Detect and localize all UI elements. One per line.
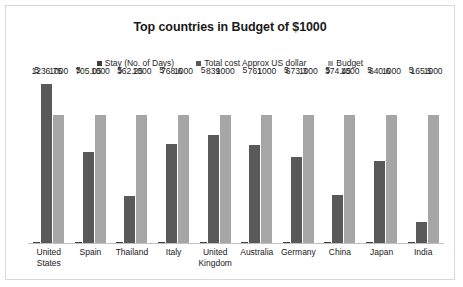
bar-group: 5673.31000 xyxy=(278,76,320,243)
bar-value-label: 1000 xyxy=(257,67,276,76)
bar-rect: 1000 xyxy=(428,115,439,243)
x-axis-label: Thailand xyxy=(111,247,153,268)
bar-value-label: 5 xyxy=(242,66,247,75)
bar-budget[interactable]: 1000 xyxy=(95,76,106,243)
x-axis-line xyxy=(28,243,444,244)
bar-rect: 1000 xyxy=(136,115,147,243)
bar-rect: 673.3 xyxy=(291,157,302,243)
bar-cost[interactable]: 761 xyxy=(249,76,260,243)
bar-value-label: 1000 xyxy=(424,67,443,76)
x-axis-labels: United StatesSpainThailandItalyUnited Ki… xyxy=(28,247,444,268)
bar-cost[interactable]: 362.25 xyxy=(124,76,135,243)
bar-group: 5768.61000 xyxy=(153,76,195,243)
bar-rect: 1236.75 xyxy=(41,84,52,243)
plot-area: 51236.7510005705.0510005362.2510005768.6… xyxy=(28,76,444,244)
bar-rect: 839 xyxy=(208,135,219,243)
bar-budget[interactable]: 1000 xyxy=(220,76,231,243)
x-axis-label: Japan xyxy=(361,247,403,268)
bar-rect: 165.5 xyxy=(416,222,427,243)
bar-cost[interactable]: 1236.75 xyxy=(41,76,52,243)
bar-group: 5374.451000 xyxy=(319,76,361,243)
bar-budget[interactable]: 1000 xyxy=(344,76,355,243)
bar-groups: 51236.7510005705.0510005362.2510005768.6… xyxy=(28,76,444,243)
bar-group: 58391000 xyxy=(194,76,236,243)
bar-group: 5362.251000 xyxy=(111,76,153,243)
bar-rect: 768.6 xyxy=(166,144,177,243)
x-axis-label: United States xyxy=(28,247,70,268)
bar-cost[interactable]: 673.3 xyxy=(291,76,302,243)
bar-cost[interactable]: 705.05 xyxy=(83,76,94,243)
bar-budget[interactable]: 1000 xyxy=(303,76,314,243)
bar-stay[interactable]: 5 xyxy=(408,76,415,243)
bar-budget[interactable]: 1000 xyxy=(261,76,272,243)
bar-stay[interactable]: 5 xyxy=(241,76,248,243)
bar-group: 57611000 xyxy=(236,76,278,243)
bar-value-label: 1000 xyxy=(91,67,110,76)
bar-stay[interactable]: 5 xyxy=(283,76,290,243)
x-axis-label: Italy xyxy=(153,247,195,268)
bar-budget[interactable]: 1000 xyxy=(386,76,397,243)
bar-value-label: 1000 xyxy=(299,67,318,76)
bar-rect: 705.05 xyxy=(83,152,94,243)
bar-rect: 1000 xyxy=(178,115,189,243)
bar-stay[interactable]: 5 xyxy=(366,76,373,243)
bar-group: 5705.051000 xyxy=(70,76,112,243)
bar-rect: 640.6 xyxy=(374,161,385,243)
bar-rect: 374.45 xyxy=(332,195,343,243)
bar-budget[interactable]: 1000 xyxy=(53,76,64,243)
bar-budget[interactable]: 1000 xyxy=(136,76,147,243)
bar-rect: 1000 xyxy=(220,115,231,243)
x-axis-label: United Kingdom xyxy=(194,247,236,268)
bar-stay[interactable]: 5 xyxy=(200,76,207,243)
bar-rect: 1000 xyxy=(261,115,272,243)
bar-rect: 1000 xyxy=(95,115,106,243)
bar-rect: 1000 xyxy=(303,115,314,243)
bar-cost[interactable]: 374.45 xyxy=(332,76,343,243)
x-axis-label: Germany xyxy=(278,247,320,268)
bar-stay[interactable]: 5 xyxy=(33,76,40,243)
bar-group: 5640.61000 xyxy=(361,76,403,243)
chart-title: Top countries in Budget of $1000 xyxy=(6,20,454,34)
bar-rect: 761 xyxy=(249,145,260,243)
bar-stay[interactable]: 5 xyxy=(324,76,331,243)
bar-stay[interactable]: 5 xyxy=(116,76,123,243)
bar-rect: 1000 xyxy=(344,115,355,243)
bar-cost[interactable]: 839 xyxy=(208,76,219,243)
bar-budget[interactable]: 1000 xyxy=(428,76,439,243)
bar-group: 51236.751000 xyxy=(28,76,70,243)
bar-cost[interactable]: 768.6 xyxy=(166,76,177,243)
bar-rect: 1000 xyxy=(386,115,397,243)
x-axis-label: Spain xyxy=(70,247,112,268)
bar-stay[interactable]: 5 xyxy=(158,76,165,243)
x-axis-label: India xyxy=(402,247,444,268)
bar-cost[interactable]: 640.6 xyxy=(374,76,385,243)
chart-container: Top countries in Budget of $1000 Stay (N… xyxy=(5,5,455,280)
bar-value-label: 1000 xyxy=(382,67,401,76)
bar-value-label: 1000 xyxy=(133,67,152,76)
bar-rect: 1000 xyxy=(53,115,64,243)
bar-cost[interactable]: 165.5 xyxy=(416,76,427,243)
bar-stay[interactable]: 5 xyxy=(75,76,82,243)
x-axis-label: Australia xyxy=(236,247,278,268)
bar-budget[interactable]: 1000 xyxy=(178,76,189,243)
bar-group: 5165.51000 xyxy=(402,76,444,243)
x-axis-label: China xyxy=(319,247,361,268)
bar-value-label: 1000 xyxy=(49,67,68,76)
bar-value-label: 5 xyxy=(201,66,206,75)
bar-value-label: 1000 xyxy=(216,67,235,76)
bar-rect: 362.25 xyxy=(124,196,135,243)
bar-value-label: 1000 xyxy=(174,67,193,76)
bar-value-label: 1000 xyxy=(340,67,359,76)
